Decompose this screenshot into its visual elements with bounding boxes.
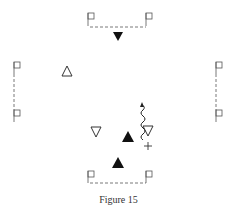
drill-diagram bbox=[0, 0, 237, 217]
flag-icon bbox=[146, 171, 152, 183]
open-triangle-up-icon bbox=[62, 66, 72, 76]
filled-triangle-up-icon bbox=[122, 131, 134, 142]
flag-icon bbox=[146, 13, 152, 26]
figure-caption: Figure 15 bbox=[0, 194, 237, 205]
flag-icon bbox=[216, 62, 222, 74]
flag-icon bbox=[14, 110, 20, 122]
goal-top bbox=[88, 13, 152, 27]
open-triangle-down-icon bbox=[91, 127, 101, 137]
flag-icon bbox=[14, 62, 20, 74]
goal-right bbox=[216, 62, 222, 122]
flag-icon bbox=[216, 110, 222, 122]
flag-icon bbox=[88, 171, 94, 183]
goal-bottom bbox=[88, 171, 152, 183]
goal-left bbox=[14, 62, 20, 122]
plus-icon bbox=[144, 142, 152, 150]
flag-icon bbox=[88, 13, 94, 26]
filled-triangle-down-icon bbox=[113, 32, 123, 41]
filled-triangle-up-icon bbox=[112, 157, 124, 168]
wavy-arrow-icon bbox=[140, 102, 145, 140]
